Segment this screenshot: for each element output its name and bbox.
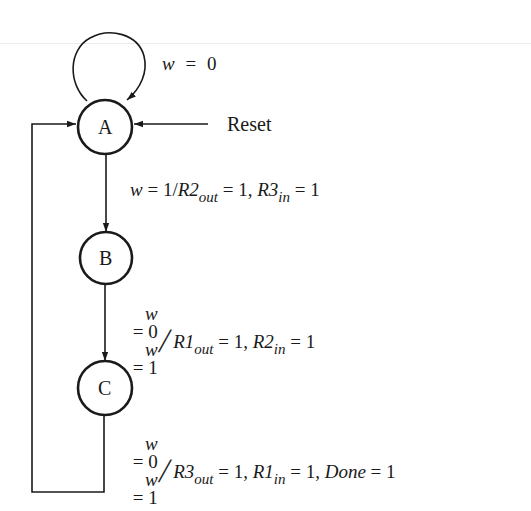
b-to-c-label: w = 0 w = 1 /R1out = 1, R2in = 1	[128, 305, 315, 377]
output-sub: in	[278, 189, 290, 205]
output-val: = 1	[366, 461, 396, 482]
output-val: = 1	[290, 179, 320, 200]
output-val: = 1	[285, 331, 315, 352]
cond-val: 0	[207, 53, 217, 74]
output-reg: R2	[178, 179, 199, 200]
self-loop-a-condition: w = 0	[162, 54, 216, 73]
output-val: = 1,	[218, 179, 257, 200]
output-reg: R3	[257, 179, 278, 200]
reset-label: Reset	[227, 114, 271, 134]
slash: /	[156, 324, 173, 358]
cond-var: w	[130, 179, 143, 200]
output-reg: R2	[253, 331, 274, 352]
self-loop-a-arrow	[73, 33, 145, 101]
output-reg: R1	[173, 331, 194, 352]
output-sub: out	[194, 471, 213, 487]
cond-eq: =	[143, 179, 163, 200]
output-sub: out	[194, 341, 213, 357]
output-reg: R3	[173, 461, 194, 482]
output-sub: out	[199, 189, 218, 205]
output-val: = 1,	[213, 331, 252, 352]
conditions-stack: w = 0 w = 1	[128, 305, 158, 377]
cond-var: w	[162, 53, 175, 74]
output-reg: R1	[253, 461, 274, 482]
output-val: = 1,	[213, 461, 252, 482]
c-to-a-arrow	[32, 124, 104, 492]
a-to-b-label: w = 1/R2out = 1, R3in = 1	[130, 180, 320, 199]
state-b-label: B	[99, 248, 112, 268]
state-a-label: A	[98, 117, 112, 137]
c-to-a-label: w = 0 w = 1 /R3out = 1, R1in = 1, Done =…	[128, 435, 396, 507]
cond-val: 1	[163, 179, 173, 200]
done-signal: Done	[325, 461, 366, 482]
output-sub: in	[274, 471, 286, 487]
cond-eq: =	[185, 53, 196, 74]
output-val: = 1,	[285, 461, 324, 482]
slash: /	[156, 454, 173, 488]
conditions-stack: w = 0 w = 1	[128, 435, 158, 507]
output-sub: in	[274, 341, 286, 357]
state-c-label: C	[98, 378, 111, 398]
